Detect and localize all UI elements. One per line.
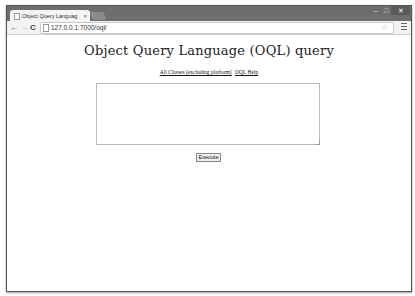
page-title: Object Query Language (OQL) query xyxy=(7,43,411,58)
close-window-button[interactable]: ✕ xyxy=(391,6,410,15)
menu-icon[interactable] xyxy=(401,23,407,30)
page-icon xyxy=(14,13,20,20)
maximize-button[interactable]: □ xyxy=(381,6,391,15)
resize-grip-icon[interactable] xyxy=(316,141,320,145)
reload-icon[interactable]: C xyxy=(30,22,36,33)
title-bar: Object Query Languag × – □ ✕ xyxy=(7,6,411,21)
all-classes-link[interactable]: All Classes (excluding platform) xyxy=(160,69,232,75)
minimize-button[interactable]: – xyxy=(371,6,381,15)
help-links: All Classes (excluding platform) OQL Hel… xyxy=(7,69,411,75)
page-icon xyxy=(43,24,49,32)
browser-toolbar: ← → C 127.0.0.1:7000/oql/ ☆ xyxy=(7,21,411,35)
execute-button[interactable]: Execute xyxy=(196,153,221,162)
page-content: Object Query Language (OQL) query All Cl… xyxy=(7,35,411,291)
browser-window: Object Query Languag × – □ ✕ ← → C 127.0… xyxy=(6,5,412,292)
back-icon[interactable]: ← xyxy=(10,22,18,33)
url-text: 127.0.0.1:7000/oql/ xyxy=(51,24,107,31)
forward-icon[interactable]: → xyxy=(20,22,28,33)
query-input[interactable] xyxy=(96,83,320,145)
address-bar[interactable]: 127.0.0.1:7000/oql/ ☆ xyxy=(40,22,394,34)
bookmark-star-icon[interactable]: ☆ xyxy=(381,22,387,32)
new-tab-button[interactable] xyxy=(90,12,107,20)
tab-title: Object Query Languag xyxy=(22,13,77,19)
oql-help-link[interactable]: OQL Help xyxy=(235,69,258,75)
